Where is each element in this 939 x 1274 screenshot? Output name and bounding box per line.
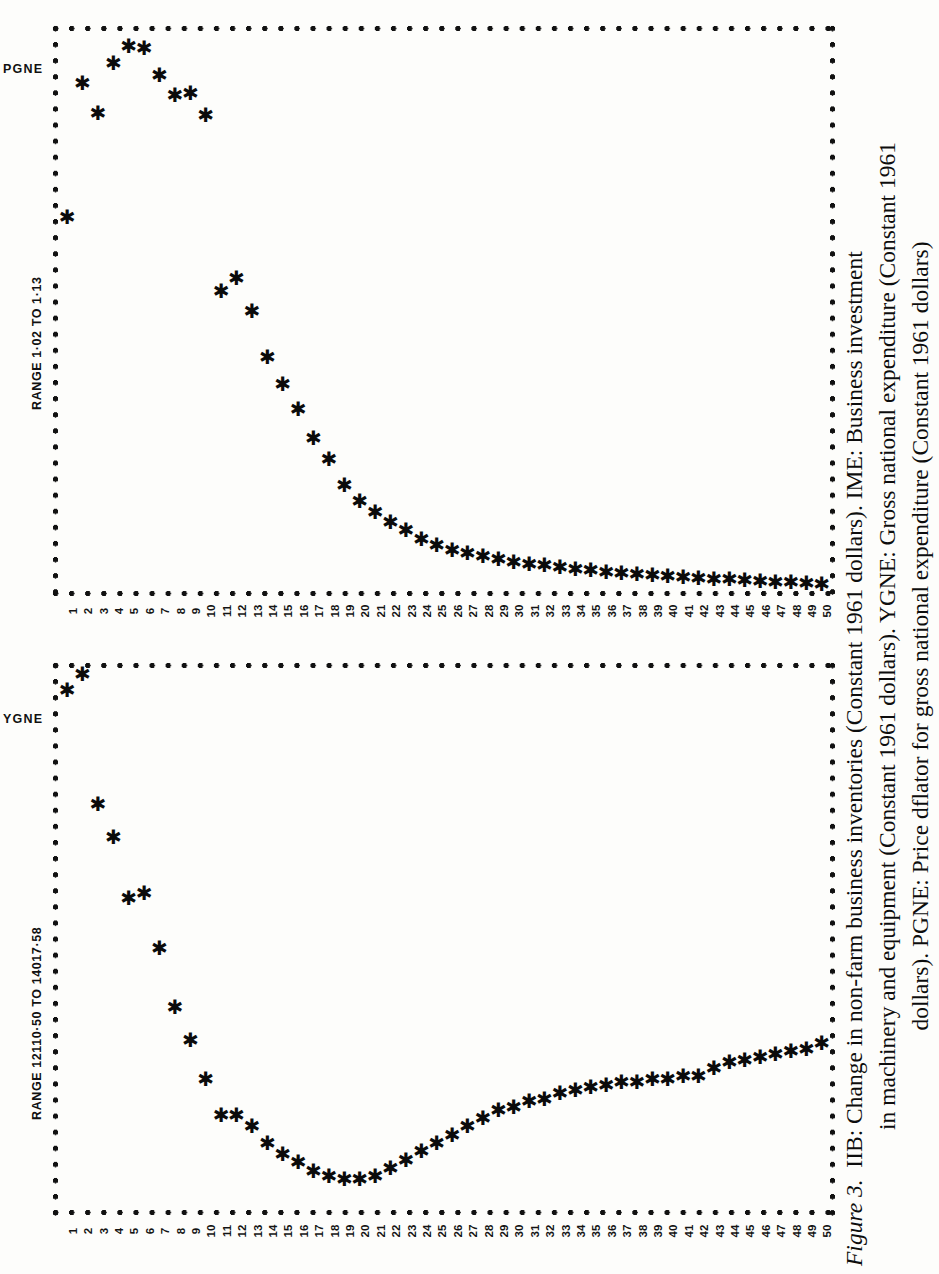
data-point [228,1107,244,1123]
x-tick-label: 1 [67,1224,79,1238]
data-point [444,1127,460,1143]
data-point [136,885,152,901]
data-point [629,566,645,582]
x-tick-label: 38 [637,1224,649,1238]
x-tick-label: 16 [298,1224,310,1238]
x-tick-label: 10 [205,604,217,618]
x-tick-label: 47 [775,1224,787,1238]
data-point [305,430,321,446]
x-tick-label: 31 [529,1224,541,1238]
x-tick-label: 34 [575,1224,587,1238]
x-tick-label: 40 [667,1224,679,1238]
x-tick-label: 19 [344,604,356,618]
x-tick-label: 5 [128,1224,140,1238]
data-point [336,477,352,493]
data-point [767,574,783,590]
data-point [567,1082,583,1098]
panel-pgne-frame [52,25,836,597]
data-point [351,493,367,509]
data-point [259,1135,275,1151]
x-tick-label: 13 [252,604,264,618]
x-tick-label: 18 [329,1224,341,1238]
data-point [598,1077,614,1093]
x-tick-label: 41 [683,604,695,618]
data-point [475,548,491,564]
x-tick-label: 2 [82,1224,94,1238]
panel-pgne: PGNE RANGE 1·02 TO 1·13 1234567891011121… [0,0,838,660]
x-tick-label: 35 [590,1224,602,1238]
x-tick-label: 48 [791,1224,803,1238]
panel-pgne-plot-area [59,32,829,590]
data-point [213,1107,229,1123]
data-point [521,556,537,572]
data-point [105,55,121,71]
x-tick-label: 36 [606,604,618,618]
data-point [351,1171,367,1187]
caption-line-2: in machinery and equipment (Constant 196… [871,6,904,1266]
data-point [721,571,737,587]
data-point [690,1068,706,1084]
data-point [105,829,121,845]
data-point [536,557,552,573]
x-tick-label: 8 [175,604,187,618]
data-point [552,559,568,575]
x-tick-label: 24 [421,604,433,618]
data-point [798,575,814,591]
x-tick-label: 17 [313,1224,325,1238]
data-point [182,1032,198,1048]
caption-line-3: dollars). PGNE: Price dflator for gross … [904,6,937,1266]
x-tick-label: 7 [159,604,171,618]
x-tick-label: 24 [421,1224,433,1238]
data-point [582,1079,598,1095]
x-tick-label: 38 [637,604,649,618]
x-tick-label: 47 [775,604,787,618]
data-point [659,1071,675,1087]
data-point [336,1171,352,1187]
data-point [274,1146,290,1162]
data-point [74,666,90,682]
data-point [613,565,629,581]
data-point [244,1118,260,1134]
x-tick-label: 46 [760,604,772,618]
frame-border-right [829,662,836,1216]
x-tick-label: 27 [467,604,479,618]
x-tick-label: 44 [729,1224,741,1238]
data-point [274,376,290,392]
data-point [521,1093,537,1109]
frame-border-left [52,25,59,597]
x-tick-label: 22 [390,604,402,618]
data-point [197,107,213,123]
data-point [490,551,506,567]
data-point [505,1099,521,1115]
data-point [151,940,167,956]
data-point [59,209,75,225]
data-point [367,504,383,520]
x-tick-label: 44 [729,604,741,618]
caption-text-1: IIB: Change in non-farm business invento… [841,251,867,1167]
x-tick-label: 37 [621,604,633,618]
panel-pgne-series-label: PGNE [3,62,43,76]
data-point [675,569,691,585]
data-point [444,542,460,558]
data-point [398,1152,414,1168]
data-point [659,568,675,584]
data-point [428,1135,444,1151]
x-tick-label: 39 [652,604,664,618]
data-point [120,38,136,54]
frame-border-bottom [52,590,836,597]
x-tick-label: 28 [483,1224,495,1238]
data-point [813,576,829,592]
data-point [413,1143,429,1159]
data-point [598,564,614,580]
data-point [505,554,521,570]
panel-ygne-frame [52,662,836,1216]
x-tick-label: 25 [436,604,448,618]
x-tick-label: 29 [498,1224,510,1238]
data-point [736,1052,752,1068]
x-tick-label: 21 [375,1224,387,1238]
x-tick-label: 29 [498,604,510,618]
x-tick-label: 6 [144,604,156,618]
x-tick-label: 25 [436,1224,448,1238]
data-point [228,270,244,286]
panel-ygne-x-axis-ticks: 1234567891011121314151617181920212223242… [52,1224,836,1270]
